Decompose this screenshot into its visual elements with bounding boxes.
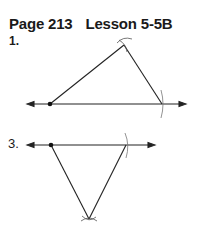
side-right xyxy=(124,45,162,104)
point-dot xyxy=(48,102,53,107)
arrow-left-icon xyxy=(27,102,34,107)
side-left xyxy=(51,145,89,219)
point-dot xyxy=(49,143,54,148)
figure-problem-3 xyxy=(27,133,155,221)
arrow-right-icon xyxy=(148,143,155,148)
side-right xyxy=(89,145,126,219)
figure-problem-1 xyxy=(27,38,186,118)
geometry-figures xyxy=(0,0,205,245)
arrow-left-icon xyxy=(27,143,34,148)
arrow-right-icon xyxy=(179,102,186,107)
side-left xyxy=(50,45,124,104)
